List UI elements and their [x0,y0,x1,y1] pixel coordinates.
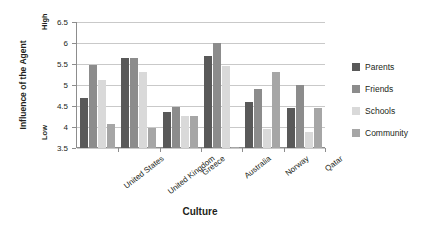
bar [80,98,88,148]
y-axis-tick-label: 4.5 [57,102,68,111]
bar [296,85,304,148]
legend-swatch-icon [352,85,360,93]
bar-group [201,22,242,148]
legend-label: Community [365,128,408,138]
bar [89,65,97,148]
legend-item: Schools [352,106,408,116]
legend-item: Friends [352,84,408,94]
x-axis-tick-label: Norway [283,154,310,178]
legend-swatch-icon [352,129,360,137]
x-axis-tick-label: United States [123,154,166,191]
y-axis-title-label: Influence of the Agent [18,41,28,130]
y-axis-tick-label: 6 [64,39,68,48]
bar [130,58,138,148]
bar [181,116,189,148]
bar [254,89,262,148]
y-axis-tick-label: 5.5 [57,60,68,69]
legend-label: Schools [365,106,395,116]
bar [98,80,106,148]
x-axis-title: Culture [76,206,324,217]
bar-group [160,22,201,148]
legend-swatch-icon [352,63,360,71]
bar [287,108,295,148]
bar-group [118,22,159,148]
bar [148,128,156,148]
bar [222,66,230,148]
y-axis-tick-label: 4 [64,123,68,132]
legend-item: Parents [352,62,408,72]
y-axis-ticks: 3.544.555.566.5 [44,22,72,148]
bar [204,56,212,148]
plot-area [76,22,324,148]
x-axis-tick-mark [160,148,161,152]
legend-item: Community [352,128,408,138]
bar [231,147,239,148]
x-axis-tick-mark [242,148,243,152]
bar [163,112,171,148]
x-axis-tick-label: Australia [243,154,273,180]
bar-group [242,22,283,148]
y-axis-tick-label: 5 [64,81,68,90]
bar [272,72,280,148]
legend-label: Parents [365,62,394,72]
bar [107,124,115,148]
x-axis-tick-mark [201,148,202,152]
bar [121,58,129,148]
bar [139,72,147,148]
y-axis-title: Influence of the Agent [14,10,32,160]
bar-group [77,22,118,148]
bar [263,129,271,148]
bar-chart: Influence of the Agent High Low 3.544.55… [0,0,434,236]
bar [305,132,313,148]
x-axis-tick-mark [284,148,285,152]
x-axis-tick-label: Qatar [323,154,344,173]
x-axis-tick-mark [325,148,326,152]
x-axis-tick-mark [118,148,119,152]
bar [172,107,180,148]
y-axis-tick-label: 6.5 [57,18,68,27]
bar [213,43,221,148]
bar [245,102,253,148]
legend-label: Friends [365,84,393,94]
legend-swatch-icon [352,107,360,115]
bar [190,116,198,148]
bar [314,108,322,148]
legend: ParentsFriendsSchoolsCommunity [352,62,408,138]
bar-group [284,22,325,148]
y-axis-tick-mark [72,148,76,149]
y-axis-tick-label: 3.5 [57,144,68,153]
